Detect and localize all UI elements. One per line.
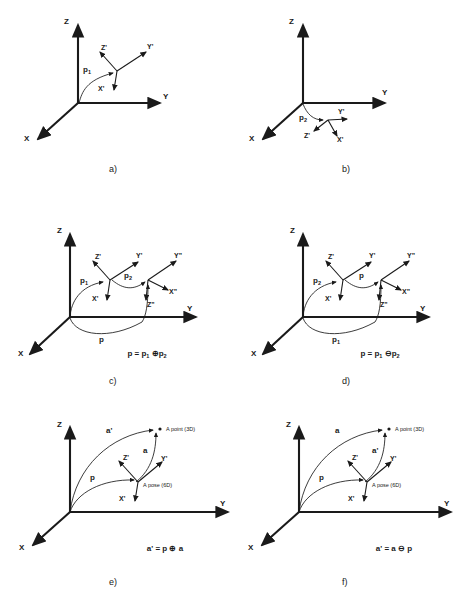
frame-label-z-prime: Z' [95, 253, 101, 260]
pose-curve-p2: p2 [299, 104, 323, 123]
eq-arg2: a [179, 544, 184, 553]
axis-label-x: X [19, 543, 25, 552]
local-frame-primed-c: Z' Y' X' [92, 252, 143, 302]
frame-label-y-prime: Y' [369, 252, 376, 259]
frame-label-z-double-prime: Z" [147, 301, 155, 308]
frame-label-z-prime: Z' [123, 454, 129, 461]
local-frame-primed-d: Z' Y' X' [325, 252, 376, 302]
curve-label-p: p [319, 473, 324, 482]
frame-label-x-double-prime: X" [402, 288, 410, 295]
local-frame-double-primed-d: Y" X" Z" [379, 252, 415, 308]
local-frame-primed-b: Y' X' Z' [304, 108, 347, 143]
local-frame-primed-e: Z' Y' X' [119, 454, 168, 502]
vector-curve-a: a [299, 426, 382, 512]
local-frame-double-primed-c: Y" X" Z" [146, 252, 182, 308]
curve-label-a: a [335, 426, 340, 435]
curve-label-p1: p1 [83, 65, 91, 75]
frame-label-z-prime: Z' [352, 454, 358, 461]
vector-curve-a-prime: a' [70, 426, 153, 512]
panel-b: Z Y X p2 Y' X' Z' b) [233, 0, 466, 190]
panel-a: Z Y X p1 Z' Y' X' a) [0, 0, 233, 190]
panel-caption-c: c) [109, 376, 117, 386]
pose-curve-p1: p1 [303, 285, 381, 345]
curve-label-p2: p2 [299, 113, 307, 123]
pose-curve-p: p [70, 285, 148, 344]
axis-label-x: X [248, 543, 254, 552]
frame-label-y-prime: Y' [338, 108, 345, 115]
curve-label-p2: p2 [124, 271, 132, 281]
axis-label-y: Y [187, 304, 193, 313]
panel-caption-e: e) [109, 577, 117, 587]
axis-label-z: Z [286, 420, 291, 429]
axis-label-y: Y [420, 304, 426, 313]
pose-curve-p2: p2 [112, 271, 145, 288]
local-frame-primed-f: Z' Y' X' [348, 454, 397, 502]
pose-curve-p: p [299, 473, 363, 512]
frame-label-x-prime: X' [337, 136, 344, 143]
world-axes-a: Z Y X [24, 17, 169, 143]
annotation-pose-6d: A pose (6D) [372, 482, 401, 488]
panel-f: Z Y X a p a' A point (3D) [233, 395, 466, 600]
curve-label-p: p [90, 473, 95, 482]
frame-label-x-prime: X' [119, 495, 126, 502]
frame-label-y-prime: Y' [147, 43, 154, 50]
axis-label-y: Y [444, 499, 450, 508]
frame-label-z-prime: Z' [328, 253, 334, 260]
axis-label-z: Z [57, 226, 62, 235]
axis-label-z: Z [64, 17, 69, 26]
point-3d-marker [387, 427, 390, 430]
frame-label-x-prime: X' [348, 495, 355, 502]
frame-label-y-prime: Y' [161, 455, 168, 462]
panel-d: Z Y X p2 Z' Y' X' p [233, 190, 466, 395]
point-3d-marker [158, 427, 161, 430]
equation-d: p = p1 ⊖p2 [360, 349, 399, 359]
curve-label-p1: p1 [80, 276, 88, 286]
axis-label-z: Z [290, 226, 295, 235]
equation-f: a' = a ⊖ p [376, 544, 412, 553]
frame-label-z-prime: Z' [304, 132, 310, 139]
eq-operator: ⊖ [385, 349, 392, 358]
panel-c: Z Y X p1 Z' Y' X' p2 [0, 190, 233, 395]
axis-label-y: Y [220, 499, 226, 508]
annotation-point-3d: A point (3D) [395, 426, 424, 432]
frame-label-z-double-prime: Z" [380, 301, 388, 308]
annotation-pose-6d: A pose (6D) [143, 482, 172, 488]
curve-label-p1: p1 [332, 335, 340, 345]
panel-caption-f: f) [342, 577, 348, 587]
pose-curve-p: p [70, 473, 134, 512]
axis-label-x: X [251, 349, 257, 358]
frame-label-x-double-prime: X" [169, 288, 177, 295]
curve-label-p: p [99, 335, 104, 344]
axis-label-y: Y [382, 88, 388, 97]
eq-operator: ⊕ [169, 544, 176, 553]
curve-label-a-prime: a' [372, 446, 378, 455]
figure-grid: Z Y X p1 Z' Y' X' a) [0, 0, 466, 600]
frame-label-x-prime: X' [325, 295, 332, 302]
equation-c: p = p1 ⊕p2 [127, 349, 166, 359]
pose-curve-p1: p1 [79, 65, 113, 103]
eq-operator: ⊖ [398, 544, 405, 553]
axis-label-x: X [24, 134, 30, 143]
eq-operator: ⊕ [152, 349, 159, 358]
frame-label-z-prime: Z' [101, 44, 107, 51]
world-axes-b: Z Y X [249, 17, 388, 143]
axis-label-x: X [18, 349, 24, 358]
panel-caption-d: d) [342, 376, 350, 386]
axis-label-y: Y [163, 92, 169, 101]
curve-label-p: p [359, 271, 364, 280]
curve-label-a: a [143, 446, 148, 455]
panel-e: Z Y X a' p a A point (3D) [0, 395, 233, 600]
pose-curve-p: p [345, 271, 378, 288]
curve-label-a-prime: a' [106, 426, 112, 435]
world-axes-e: Z Y X [19, 420, 228, 552]
frame-label-x-prime: X' [92, 295, 99, 302]
axis-label-z: Z [289, 17, 294, 26]
annotation-point-3d: A point (3D) [166, 426, 195, 432]
frame-label-x-prime: X' [98, 85, 105, 92]
eq-arg2: p [407, 544, 412, 553]
panel-caption-b: b) [342, 164, 350, 174]
local-frame-primed-a: Z' Y' X' [98, 43, 154, 92]
equation-e: a' = p ⊕ a [147, 544, 184, 553]
frame-label-y-double-prime: Y" [407, 252, 415, 259]
axis-label-z: Z [57, 420, 62, 429]
